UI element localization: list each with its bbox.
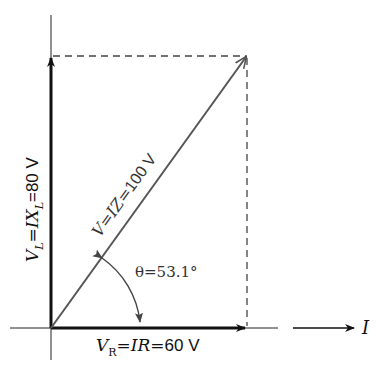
phasor-diagram: I VL=IXL=80 V V=IZ=100 V θ=53.1° VR=IR=6…: [0, 0, 381, 369]
theta-label: θ=53.1°: [135, 263, 198, 281]
vl-label: VL=IXL=80 V: [22, 156, 46, 262]
current-label: I: [361, 317, 370, 338]
vr-label: VR=IR=60 V: [96, 335, 200, 359]
v-resultant-arrow: [51, 57, 246, 328]
